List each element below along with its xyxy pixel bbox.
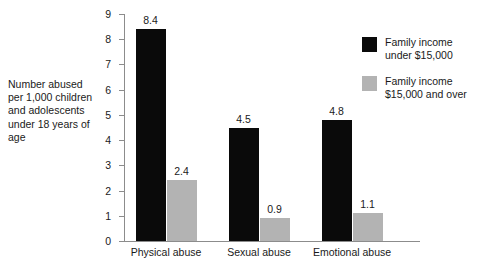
y-axis-tick-label: 8: [105, 33, 111, 45]
bar-value-label: 4.8: [329, 105, 344, 117]
y-axis-tick: 4: [119, 140, 124, 141]
y-axis-tick: 0: [119, 241, 124, 242]
bar-value-label: 8.4: [143, 14, 158, 26]
bar: [229, 128, 259, 242]
bar: [136, 29, 166, 241]
y-axis-line: [124, 14, 125, 241]
y-axis-tick-label: 3: [105, 159, 111, 171]
y-axis-tick: 7: [119, 64, 124, 65]
legend-label: Family income $15,000 and over: [385, 75, 467, 101]
y-axis-tick: 1: [119, 216, 124, 217]
bar-value-label: 4.5: [236, 113, 251, 125]
legend-swatch-icon: [362, 76, 377, 91]
legend-swatch-icon: [362, 37, 377, 52]
x-axis-line: [124, 241, 420, 242]
bar-value-label: 2.4: [174, 165, 189, 177]
y-axis-tick-label: 2: [105, 185, 111, 197]
y-axis-caption: Number abused per 1,000 children and ado…: [8, 78, 116, 144]
legend-item: Family income $15,000 and over: [362, 75, 482, 101]
bar: [167, 180, 197, 241]
y-axis-tick: 5: [119, 115, 124, 116]
y-axis-tick-label: 0: [105, 235, 111, 247]
y-axis-tick-label: 4: [105, 134, 111, 146]
bar-chart: Number abused per 1,000 children and ado…: [0, 0, 485, 277]
y-axis-tick-label: 6: [105, 84, 111, 96]
bar-value-label: 1.1: [360, 198, 375, 210]
category-label: Sexual abuse: [227, 246, 291, 258]
y-axis-tick-label: 7: [105, 58, 111, 70]
y-axis-tick-label: 9: [105, 8, 111, 20]
bar: [260, 218, 290, 241]
bar-value-label: 0.9: [267, 203, 282, 215]
y-axis-tick: 9: [119, 14, 124, 15]
y-axis-tick: 2: [119, 191, 124, 192]
bar: [322, 120, 352, 241]
legend-label: Family income under $15,000: [385, 36, 453, 62]
y-axis-tick: 3: [119, 165, 124, 166]
category-label: Emotional abuse: [313, 246, 391, 258]
legend-item: Family income under $15,000: [362, 36, 482, 62]
y-axis-tick: 8: [119, 39, 124, 40]
y-axis-tick: 6: [119, 90, 124, 91]
legend: Family income under $15,000Family income…: [362, 36, 482, 114]
y-axis-tick-label: 1: [105, 210, 111, 222]
y-axis-tick-label: 5: [105, 109, 111, 121]
category-label: Physical abuse: [131, 246, 202, 258]
bar: [353, 213, 383, 241]
